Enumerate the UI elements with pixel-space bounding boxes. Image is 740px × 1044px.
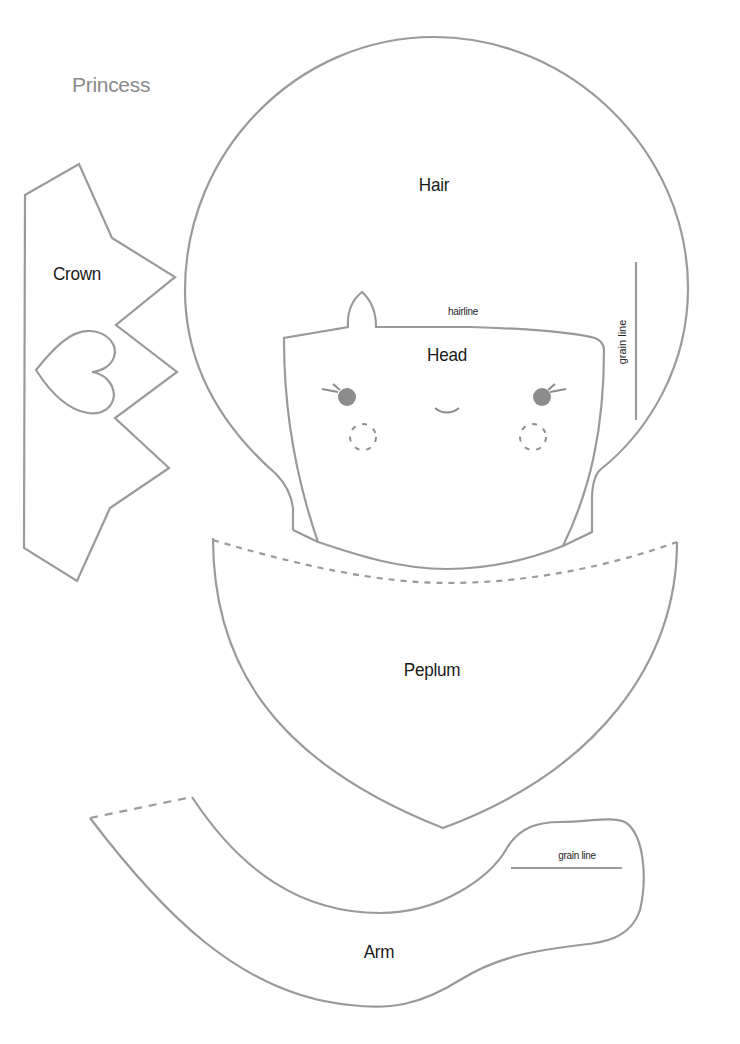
- left-lash-2: [333, 384, 340, 390]
- right-cheek-icon: [520, 424, 546, 450]
- head-label: Head: [427, 344, 467, 366]
- hair-outline: [185, 37, 688, 546]
- arm-label: Arm: [364, 941, 395, 963]
- left-eye-icon: [338, 388, 356, 406]
- right-lash-2: [548, 384, 555, 390]
- head-outline: [284, 292, 604, 569]
- left-cheek-icon: [350, 424, 376, 450]
- crown-label: Crown: [53, 263, 101, 285]
- pattern-sheet: Princess Crown Hair hairline Head grain …: [0, 0, 740, 1044]
- arm-dashed-seam: [90, 797, 192, 818]
- face-features: [322, 384, 566, 450]
- page-title: Princess: [72, 73, 150, 97]
- right-lash-1: [550, 389, 566, 392]
- crown-outline: [24, 164, 177, 581]
- hair-grain-label: grain line: [616, 320, 628, 365]
- heart-icon: [36, 331, 115, 413]
- arm-grain-label: grain line: [558, 849, 595, 861]
- peplum-label: Peplum: [404, 659, 460, 681]
- mouth-icon: [435, 408, 459, 413]
- arm-outline: [90, 797, 644, 1007]
- right-eye-icon: [533, 388, 551, 406]
- left-lash-1: [322, 389, 338, 392]
- peplum-outline: [213, 538, 677, 828]
- hair-label: Hair: [419, 174, 449, 196]
- pattern-drawing: [0, 0, 740, 1044]
- peplum-dashed-seam: [213, 540, 677, 583]
- hairline-label: hairline: [448, 305, 478, 317]
